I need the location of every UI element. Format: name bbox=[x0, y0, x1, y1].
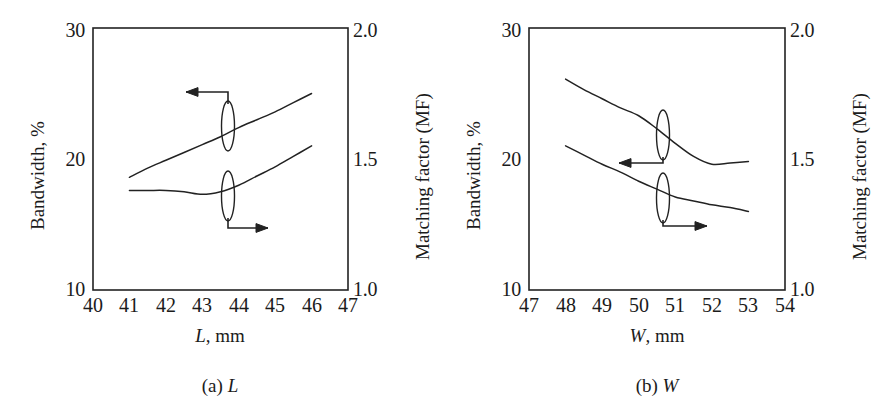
x-tick-a-4: 44 bbox=[222, 295, 256, 315]
y-right-tick-a-1: 1.5 bbox=[353, 149, 405, 169]
panel-caption-a: (a) L bbox=[120, 375, 320, 397]
x-tick-b-2: 49 bbox=[585, 295, 619, 315]
y-left-axis-title-b: Bandwidth, % bbox=[463, 121, 485, 230]
arrowhead-left-bandwidth-a bbox=[186, 88, 198, 97]
y-left-tick-a-0: 30 bbox=[33, 20, 85, 40]
plot-area-b bbox=[441, 0, 881, 419]
y-right-tick-a-0: 2.0 bbox=[353, 20, 405, 40]
arrowhead-right-matching-factor-a bbox=[256, 224, 268, 233]
panel-caption-var-a: L bbox=[228, 375, 239, 396]
x-axis-title-a: L, mm bbox=[120, 325, 320, 347]
x-tick-b-4: 51 bbox=[658, 295, 692, 315]
x-axis-title-var-b: W bbox=[630, 325, 646, 346]
y-right-axis-title-a: Matching factor (MF) bbox=[412, 93, 434, 260]
panel-caption-prefix-a: (a) bbox=[202, 375, 223, 396]
x-tick-a-1: 41 bbox=[112, 295, 146, 315]
x-tick-a-7: 47 bbox=[331, 295, 365, 315]
plot-area-a bbox=[0, 0, 440, 419]
annotation-ellipse-bandwidth-a bbox=[222, 101, 235, 151]
x-axis-title-b: W, mm bbox=[557, 325, 757, 347]
plot-frame-a bbox=[93, 28, 348, 290]
y-left-axis-title-a: Bandwidth, % bbox=[27, 121, 49, 230]
arrowhead-left-bandwidth-b bbox=[619, 159, 631, 168]
x-tick-b-6: 53 bbox=[731, 295, 765, 315]
panel-caption-b: (b) W bbox=[557, 375, 757, 397]
chart-panel-b: 30 20 10 2.0 1.5 1.0 47 48 49 50 51 52 5… bbox=[441, 0, 881, 419]
x-tick-b-7: 54 bbox=[768, 295, 802, 315]
x-tick-a-2: 42 bbox=[149, 295, 183, 315]
annotation-ellipse-matching-factor-b bbox=[657, 173, 670, 223]
panel-caption-prefix-b: (b) bbox=[636, 375, 658, 396]
arrowhead-right-matching-factor-b bbox=[695, 222, 707, 231]
x-axis-title-unit-a: , mm bbox=[206, 325, 245, 346]
series-line-matching-factor-a bbox=[129, 146, 311, 194]
annotation-ellipse-bandwidth-b bbox=[657, 110, 670, 160]
x-axis-title-var-a: L bbox=[195, 325, 206, 346]
plot-frame-b bbox=[529, 28, 785, 290]
x-tick-a-5: 45 bbox=[258, 295, 292, 315]
y-left-tick-b-0: 30 bbox=[469, 20, 521, 40]
x-tick-a-6: 46 bbox=[295, 295, 329, 315]
chart-panel-a: 30 20 10 2.0 1.5 1.0 40 41 42 43 44 45 4… bbox=[0, 0, 440, 419]
x-tick-b-5: 52 bbox=[695, 295, 729, 315]
x-tick-a-0: 40 bbox=[76, 295, 110, 315]
x-axis-title-unit-b: , mm bbox=[645, 325, 684, 346]
series-line-bandwidth-a bbox=[129, 94, 311, 178]
matching-factor-right-arrow-annotation-a bbox=[222, 171, 269, 232]
x-tick-a-3: 43 bbox=[185, 295, 219, 315]
x-tick-b-3: 50 bbox=[622, 295, 656, 315]
annotation-ellipse-matching-factor-a bbox=[222, 171, 235, 221]
y-right-tick-b-0: 2.0 bbox=[790, 20, 842, 40]
figure-root: 30 20 10 2.0 1.5 1.0 40 41 42 43 44 45 4… bbox=[0, 0, 881, 419]
y-right-tick-b-1: 1.5 bbox=[790, 149, 842, 169]
panel-caption-var-b: W bbox=[663, 375, 679, 396]
x-tick-b-1: 48 bbox=[549, 295, 583, 315]
x-tick-b-0: 47 bbox=[512, 295, 546, 315]
y-right-axis-title-b: Matching factor (MF) bbox=[849, 93, 871, 260]
